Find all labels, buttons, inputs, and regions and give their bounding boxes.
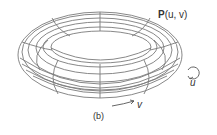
v-label: v — [137, 100, 142, 110]
point-label-symbol: P — [158, 9, 165, 20]
point-label-args: (u, v) — [165, 9, 188, 20]
torus-wireframe — [0, 0, 217, 135]
figure-caption: (b) — [93, 112, 104, 121]
point-label: P(u, v) — [158, 10, 187, 20]
u-label: u — [190, 78, 196, 88]
